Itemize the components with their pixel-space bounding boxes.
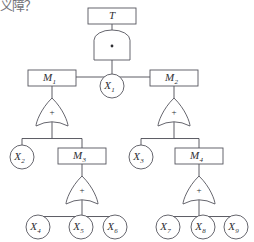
node-subscript-X3: 3 — [139, 156, 144, 164]
node-subscript-X8: 8 — [202, 226, 206, 234]
node-M2[interactable]: M2 — [150, 70, 198, 86]
and-gate-dot-icon — [111, 45, 114, 48]
node-subscript-X9: 9 — [235, 226, 239, 234]
gate-G1-or: + — [36, 98, 68, 126]
node-label-T: T — [109, 9, 116, 21]
node-subscript-X2: 2 — [21, 156, 25, 164]
node-subscript-M1: 1 — [53, 77, 57, 85]
fault-tree-diagram: 义障？ ++++ TM1M2M3M4X1X2X3X4X5X6X7X8X9 — [0, 0, 254, 242]
node-subscript-X6: 6 — [114, 226, 118, 234]
node-subscript-M4: 4 — [200, 155, 204, 163]
or-gate-symbol: + — [79, 185, 84, 195]
node-M1[interactable]: M1 — [28, 70, 76, 86]
node-subscript-X7: 7 — [167, 226, 171, 234]
node-X8[interactable]: X8 — [191, 215, 215, 239]
or-gate-symbol: + — [49, 107, 54, 117]
node-subscript-X5: 5 — [80, 226, 84, 234]
node-subscript-X1: 1 — [111, 85, 115, 93]
gate-layer: ++++ — [36, 30, 215, 204]
node-X7[interactable]: X7 — [156, 215, 180, 239]
node-subscript-X4: 4 — [37, 226, 41, 234]
node-M4[interactable]: M4 — [175, 148, 223, 164]
node-subscript-M3: 3 — [82, 155, 87, 163]
gate-G2-or: + — [158, 98, 190, 126]
node-X5[interactable]: X5 — [69, 215, 93, 239]
node-M3[interactable]: M3 — [58, 148, 106, 164]
margin-text: 义障？ — [0, 0, 36, 14]
or-gate-symbol: + — [171, 107, 176, 117]
node-X9[interactable]: X9 — [224, 215, 248, 239]
gate-G4-or: + — [183, 176, 215, 204]
node-X6[interactable]: X6 — [103, 215, 127, 239]
node-X1[interactable]: X1 — [100, 74, 124, 98]
node-X2[interactable]: X2 — [10, 145, 34, 169]
gate-G0-and — [94, 30, 130, 60]
gate-G3-or: + — [66, 176, 98, 204]
node-X3[interactable]: X3 — [129, 145, 153, 169]
node-subscript-M2: 2 — [175, 77, 179, 85]
or-gate-symbol: + — [196, 185, 201, 195]
node-T[interactable]: T — [88, 8, 136, 24]
node-X4[interactable]: X4 — [26, 215, 50, 239]
fault-tree-canvas: ++++ TM1M2M3M4X1X2X3X4X5X6X7X8X9 — [0, 0, 254, 242]
